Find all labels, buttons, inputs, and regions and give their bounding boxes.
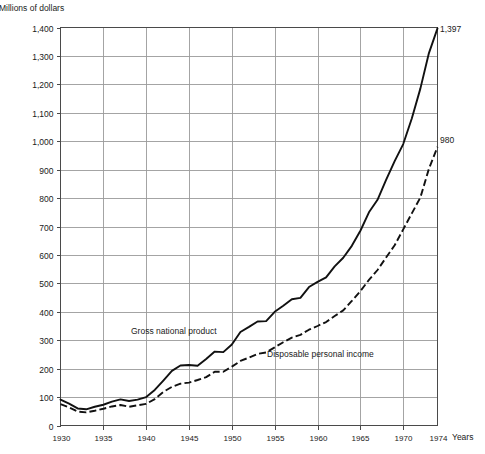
y-tick-label: 400 [39, 308, 53, 318]
chart-container: Millions of dollars 01002003004005006007… [0, 0, 485, 454]
x-axis-tickmarks [104, 426, 404, 430]
x-axis-tick-labels: 1930193519401945195019551960196519701974 [53, 434, 448, 443]
y-tick-label: 700 [39, 223, 53, 233]
y-tick-label: 600 [39, 251, 53, 261]
y-axis-tickmarks [57, 29, 61, 427]
x-tick-label: 1974 [430, 434, 448, 443]
x-tick-label: 1945 [181, 434, 199, 443]
horizontal-gridlines [61, 57, 438, 398]
y-tick-label: 1,100 [32, 109, 54, 119]
economic-line-chart: Millions of dollars 01002003004005006007… [0, 0, 485, 454]
x-tick-label: 1960 [310, 434, 328, 443]
series-label-disposable-personal-income: Disposable personal income [267, 349, 374, 359]
series-line-disposable-personal-income [61, 147, 438, 413]
y-tick-label: 1,000 [32, 137, 54, 147]
y-tick-label: 300 [39, 336, 53, 346]
x-tick-label: 1930 [53, 434, 71, 443]
y-tick-label: 1,300 [32, 52, 54, 62]
series-line-gross-national-product [61, 28, 438, 409]
endpoint-value-gross-national-product: 1,397 [440, 24, 462, 34]
y-tick-label: 800 [39, 194, 53, 204]
x-axis-title: Years [452, 432, 473, 442]
plot-frame [61, 28, 438, 426]
y-tick-label: 0 [49, 422, 54, 432]
y-axis-title: Millions of dollars [0, 3, 64, 13]
x-tick-label: 1965 [352, 434, 370, 443]
y-tick-label: 1,200 [32, 80, 54, 90]
y-tick-label: 200 [39, 365, 53, 375]
x-tick-label: 1940 [138, 434, 156, 443]
series-label-gross-national-product: Gross national product [131, 326, 217, 336]
x-tick-label: 1970 [395, 434, 413, 443]
y-tick-label: 900 [39, 166, 53, 176]
vertical-gridlines [104, 28, 404, 426]
x-tick-label: 1935 [95, 434, 113, 443]
y-tick-label: 500 [39, 279, 53, 289]
y-tick-label: 100 [39, 393, 53, 403]
x-tick-label: 1950 [224, 434, 242, 443]
endpoint-value-disposable-personal-income: 980 [440, 135, 454, 145]
y-axis-tick-labels: 01002003004005006007008009001,0001,1001,… [32, 24, 54, 432]
x-tick-label: 1955 [267, 434, 285, 443]
y-tick-label: 1,400 [32, 24, 54, 34]
